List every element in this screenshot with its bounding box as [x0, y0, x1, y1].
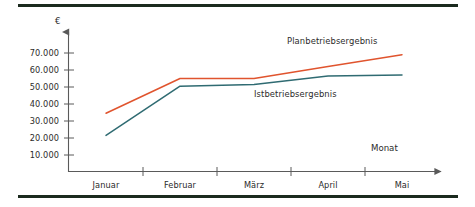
series-annotation-istbetriebsergebnis: Istbetriebsergebnis — [254, 89, 337, 99]
y-tick-label-10000: 10.000 — [13, 150, 59, 160]
series-line-istbetriebsergebnis — [106, 75, 402, 135]
x-tick-label-mai: Mai — [367, 180, 437, 190]
plot-area — [0, 0, 475, 207]
y-tick-label-60000: 60.000 — [13, 65, 59, 75]
x-tick-label-april: April — [293, 180, 363, 190]
x-axis-label: Monat — [371, 143, 398, 153]
y-tick-label-50000: 50.000 — [13, 82, 59, 92]
y-tick-label-40000: 40.000 — [13, 99, 59, 109]
x-tick-label-januar: Januar — [71, 180, 141, 190]
series-annotation-planbetriebsergebnis: Planbetriebsergebnis — [287, 36, 377, 46]
x-tick-label-maerz: März — [219, 180, 289, 190]
y-tick-label-70000: 70.000 — [13, 48, 59, 58]
y-tick-label-30000: 30.000 — [13, 116, 59, 126]
chart-figure: € 70.000 60.000 50.000 40.000 30.000 20.… — [0, 0, 475, 207]
y-axis-unit-label: € — [55, 16, 60, 26]
x-tick-label-februar: Februar — [145, 180, 215, 190]
y-tick-label-20000: 20.000 — [13, 133, 59, 143]
